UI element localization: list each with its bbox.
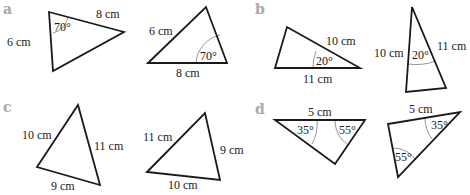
side-length-label: 6 cm <box>7 35 31 49</box>
side-length-label: 5 cm <box>308 105 332 119</box>
side-length-label: 9 cm <box>220 143 244 157</box>
triangle-d-2: 5 cm35°55° <box>388 102 460 177</box>
side-length-label: 10 cm <box>168 178 198 192</box>
triangle-exercise-figure: a b c d 8 cm6 cm70°6 cm8 cm70°10 cm11 cm… <box>0 0 470 195</box>
triangle-c-1: 10 cm11 cm9 cm <box>22 105 124 193</box>
triangle-outline <box>37 105 100 185</box>
side-length-label: 8 cm <box>176 66 200 80</box>
side-length-label: 10 cm <box>22 128 52 142</box>
triangle-a-1: 8 cm6 cm70° <box>7 7 124 71</box>
triangle-c-2: 11 cm9 cm10 cm <box>143 113 244 192</box>
angle-label: 55° <box>395 150 412 164</box>
side-length-label: 11 cm <box>94 139 124 153</box>
side-length-label: 11 cm <box>437 39 467 53</box>
side-length-label: 11 cm <box>143 130 173 144</box>
side-length-label: 11 cm <box>303 72 333 86</box>
side-length-label: 5 cm <box>409 102 433 116</box>
angle-label: 55° <box>339 123 356 137</box>
side-length-label: 10 cm <box>374 46 404 60</box>
triangle-b-1: 10 cm11 cm20° <box>275 27 360 86</box>
triangles-canvas: 8 cm6 cm70°6 cm8 cm70°10 cm11 cm20°10 cm… <box>0 0 470 195</box>
side-length-label: 6 cm <box>149 24 173 38</box>
triangle-b-2: 10 cm11 cm20° <box>374 7 467 92</box>
angle-label: 35° <box>431 118 448 132</box>
angle-label: 70° <box>54 20 71 34</box>
triangle-outline <box>147 113 220 180</box>
side-length-label: 9 cm <box>51 179 75 193</box>
angle-label: 70° <box>200 49 217 63</box>
triangle-outline <box>388 112 460 177</box>
angle-label: 20° <box>412 48 429 62</box>
angle-label: 35° <box>297 123 314 137</box>
side-length-label: 10 cm <box>326 34 356 48</box>
triangle-a-2: 6 cm8 cm70° <box>148 7 227 80</box>
side-length-label: 8 cm <box>96 7 120 21</box>
angle-label: 20° <box>316 54 333 68</box>
triangle-d-1: 5 cm35°55° <box>275 105 365 164</box>
